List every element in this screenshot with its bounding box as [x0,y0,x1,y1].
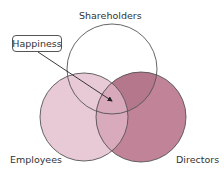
venn-diagram [0,0,224,176]
employees-label: Employees [10,154,62,165]
directors-label: Directors [176,154,219,165]
happiness-callout: Happiness [12,35,62,52]
callout-label: Happiness [12,38,61,49]
shareholders-label: Shareholders [79,10,142,21]
